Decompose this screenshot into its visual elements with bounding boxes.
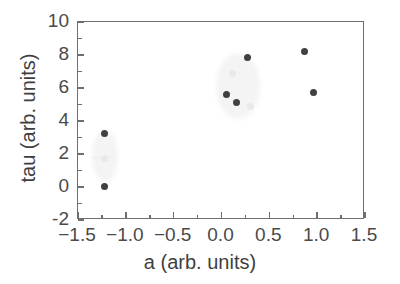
data-points-layer — [78, 22, 363, 218]
background-artifact — [216, 53, 260, 119]
y-axis-title: tau (arb. units) — [18, 8, 38, 228]
data-point — [247, 103, 254, 110]
scatter-chart-figure: 1086420-2 −1.5−1.0−0.50.00.51.01.5 a (ar… — [0, 0, 400, 284]
x-tick-label: 1.5 — [334, 225, 394, 244]
x-tick-major — [364, 212, 366, 218]
data-point — [301, 48, 308, 55]
data-point — [310, 89, 317, 96]
plot-area — [77, 21, 364, 219]
x-axis-title: a (arb. units) — [0, 252, 400, 272]
data-point — [101, 155, 108, 162]
data-point — [223, 91, 230, 98]
data-point — [101, 183, 108, 190]
y-tick-major — [78, 219, 84, 221]
data-point — [244, 54, 251, 61]
